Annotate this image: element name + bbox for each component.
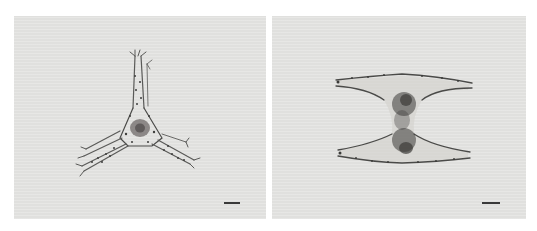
micrograph-panel-left <box>14 16 266 219</box>
hourglass-specimen <box>272 16 526 219</box>
scale-bar-right <box>482 202 500 204</box>
tri-radiate-specimen <box>14 16 266 219</box>
micrograph-panel-right <box>272 16 526 219</box>
scale-bar-left <box>224 202 240 204</box>
